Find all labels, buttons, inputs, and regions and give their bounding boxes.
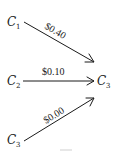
svg-text:3: 3 bbox=[106, 82, 110, 90]
svg-text:C: C bbox=[7, 133, 16, 147]
edge-c1-to-c3: $0.40 bbox=[24, 20, 94, 62]
node-c3-source: C 3 bbox=[7, 133, 20, 149]
svg-text:1: 1 bbox=[16, 23, 20, 31]
svg-text:2: 2 bbox=[16, 82, 20, 90]
node-c3-target: C 3 bbox=[97, 74, 110, 90]
svg-text:C: C bbox=[97, 74, 106, 88]
svg-text:C: C bbox=[7, 15, 16, 29]
node-c2: C 2 bbox=[7, 74, 20, 90]
edge-label-c1: $0.40 bbox=[43, 20, 68, 41]
flow-diagram: C 1 C 2 C 3 C 3 $0.40 $0.10 $0.00 bbox=[0, 0, 117, 159]
edge-label-c2: $0.10 bbox=[42, 66, 65, 77]
edge-c2-to-c3: $0.10 bbox=[23, 66, 94, 85]
node-c1: C 1 bbox=[7, 15, 20, 31]
svg-text:3: 3 bbox=[16, 141, 20, 149]
edge-c3-to-c3: $0.00 bbox=[24, 98, 94, 141]
svg-text:C: C bbox=[7, 74, 16, 88]
